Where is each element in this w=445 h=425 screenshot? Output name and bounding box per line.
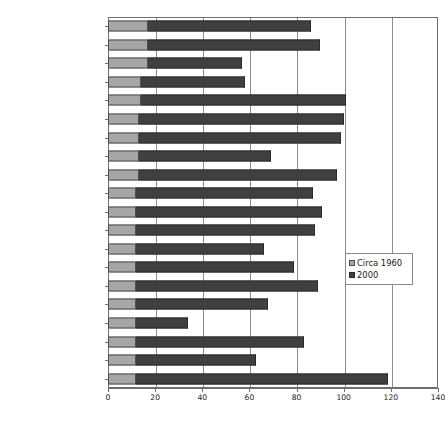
stacked-bar bbox=[108, 299, 268, 310]
bar-segment-2000 bbox=[148, 21, 311, 32]
stacked-bar bbox=[108, 318, 188, 329]
bar-segment-2000 bbox=[136, 225, 315, 236]
bar-row: Peru bbox=[108, 128, 438, 147]
stacked-bar bbox=[108, 243, 264, 254]
stacked-bar bbox=[108, 206, 322, 217]
bar-segment-circa-1960 bbox=[108, 151, 139, 162]
bar-row: Iraq bbox=[108, 54, 438, 73]
bar-segment-2000 bbox=[139, 114, 344, 125]
bar-row: Tunisia bbox=[108, 184, 438, 203]
stacked-bar bbox=[108, 280, 318, 291]
legend-label-2000: 2000 bbox=[357, 269, 378, 281]
x-axis-tick bbox=[108, 388, 109, 392]
stacked-bar bbox=[108, 355, 256, 366]
stacked-bar bbox=[108, 151, 271, 162]
bar-segment-circa-1960 bbox=[108, 225, 136, 236]
bar-segment-2000 bbox=[136, 206, 322, 217]
bar-segment-circa-1960 bbox=[108, 39, 148, 50]
chart-legend: Circa 1960 2000 bbox=[345, 253, 413, 285]
bar-segment-circa-1960 bbox=[108, 58, 148, 69]
x-axis-tick bbox=[391, 388, 392, 392]
bar-segment-circa-1960 bbox=[108, 373, 136, 384]
x-axis-line bbox=[108, 388, 438, 389]
legend-item-circa-1960: Circa 1960 bbox=[349, 257, 408, 269]
stacked-bar bbox=[108, 336, 304, 347]
x-axis-tick bbox=[297, 388, 298, 392]
bar-segment-circa-1960 bbox=[108, 355, 136, 366]
bar-row: Thailand bbox=[108, 202, 438, 221]
bar-row: Malaysia bbox=[108, 17, 438, 36]
bar-row: Brazil bbox=[108, 369, 438, 388]
x-axis-tick-label: 40 bbox=[197, 393, 207, 402]
bar-segment-2000 bbox=[136, 188, 313, 199]
bar-row: El Salvador bbox=[108, 351, 438, 370]
x-axis-tick bbox=[249, 388, 250, 392]
x-axis-tick bbox=[344, 388, 345, 392]
bar-segment-2000 bbox=[136, 299, 268, 310]
bar-segment-2000 bbox=[136, 355, 256, 366]
bar-segment-2000 bbox=[139, 169, 337, 180]
legend-item-2000: 2000 bbox=[349, 269, 408, 281]
stacked-bar bbox=[108, 169, 337, 180]
stacked-bar bbox=[108, 132, 341, 143]
legend-swatch-icon-circa-1960 bbox=[349, 260, 355, 266]
bar-segment-2000 bbox=[148, 58, 242, 69]
bar-segment-circa-1960 bbox=[108, 188, 136, 199]
x-axis-tick-label: 20 bbox=[150, 393, 160, 402]
bar-row: Paraguay bbox=[108, 295, 438, 314]
stacked-bar bbox=[108, 373, 388, 384]
bar-segment-circa-1960 bbox=[108, 318, 136, 329]
bar-row: Mexico bbox=[108, 332, 438, 351]
x-axis-tick-label: 100 bbox=[336, 393, 351, 402]
stacked-bar bbox=[108, 262, 294, 273]
bar-segment-2000 bbox=[136, 336, 303, 347]
bar-rows: MalaysiaLebanonIraqSyrian Arab RepublicE… bbox=[108, 17, 438, 388]
bar-row: Iran, Islamic Republic of bbox=[108, 221, 438, 240]
bar-segment-2000 bbox=[136, 280, 318, 291]
bar-chart: MalaysiaLebanonIraqSyrian Arab RepublicE… bbox=[0, 0, 445, 425]
bar-row: Turkey bbox=[108, 147, 438, 166]
bar-segment-2000 bbox=[141, 95, 346, 106]
bar-segment-2000 bbox=[139, 132, 342, 143]
x-axis-tick-label: 120 bbox=[384, 393, 399, 402]
bar-segment-2000 bbox=[136, 243, 263, 254]
bar-segment-circa-1960 bbox=[108, 169, 139, 180]
bar-segment-circa-1960 bbox=[108, 21, 148, 32]
bar-segment-circa-1960 bbox=[108, 95, 141, 106]
bar-segment-circa-1960 bbox=[108, 132, 139, 143]
x-axis-tick-label: 80 bbox=[292, 393, 302, 402]
stacked-bar bbox=[108, 114, 344, 125]
bar-segment-2000 bbox=[136, 373, 388, 384]
bar-row: Pakistan bbox=[108, 314, 438, 333]
bar-segment-2000 bbox=[139, 151, 271, 162]
bar-row: Syrian Arab Republic bbox=[108, 73, 438, 92]
bar-segment-2000 bbox=[148, 39, 320, 50]
bar-row: Cuba bbox=[108, 165, 438, 184]
bar-segment-2000 bbox=[136, 318, 188, 329]
stacked-bar bbox=[108, 76, 245, 87]
x-axis-tick-label: 140 bbox=[431, 393, 445, 402]
bar-row: Egypt bbox=[108, 91, 438, 110]
legend-swatch-icon-2000 bbox=[349, 272, 355, 278]
bar-segment-circa-1960 bbox=[108, 262, 136, 273]
bar-segment-circa-1960 bbox=[108, 280, 136, 291]
stacked-bar bbox=[108, 21, 311, 32]
bar-segment-circa-1960 bbox=[108, 299, 136, 310]
bar-segment-circa-1960 bbox=[108, 114, 139, 125]
stacked-bar bbox=[108, 225, 315, 236]
x-axis-tick-label: 0 bbox=[106, 393, 111, 402]
bar-row: Lebanon bbox=[108, 36, 438, 55]
bar-segment-circa-1960 bbox=[108, 206, 136, 217]
bar-segment-circa-1960 bbox=[108, 243, 136, 254]
x-axis-tick-label: 60 bbox=[245, 393, 255, 402]
bar-segment-2000 bbox=[141, 76, 245, 87]
bar-segment-circa-1960 bbox=[108, 76, 141, 87]
legend-label-circa-1960: Circa 1960 bbox=[357, 257, 402, 269]
bar-segment-2000 bbox=[136, 262, 294, 273]
x-axis-tick bbox=[202, 388, 203, 392]
stacked-bar bbox=[108, 95, 346, 106]
stacked-bar bbox=[108, 39, 320, 50]
bar-row: South Africa bbox=[108, 110, 438, 129]
x-axis-tick bbox=[155, 388, 156, 392]
stacked-bar bbox=[108, 58, 242, 69]
